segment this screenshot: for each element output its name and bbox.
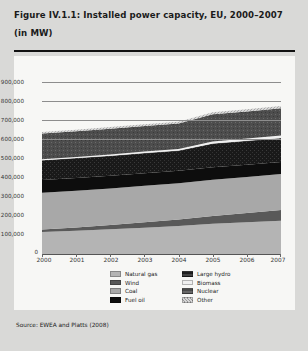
legend-label-fuel_oil: Fuel oil bbox=[125, 297, 145, 303]
legend-item-wind[interactable]: Wind bbox=[110, 279, 157, 287]
y-tick-label: 600,000 bbox=[0, 136, 24, 142]
legend-label-natural_gas: Natural gas bbox=[125, 271, 157, 277]
legend-label-coal: Coal bbox=[125, 288, 137, 294]
figure-title-line-2: (in MW) bbox=[14, 27, 294, 39]
legend-item-nuclear[interactable]: Nuclear bbox=[182, 287, 231, 295]
legend-label-other: Other bbox=[197, 297, 213, 303]
y-tick-label: 300,000 bbox=[0, 193, 24, 199]
gridline-900000 bbox=[42, 82, 281, 83]
y-tick-label: 800,000 bbox=[0, 98, 24, 104]
legend-swatch-wind bbox=[110, 280, 121, 286]
title-divider-rule bbox=[14, 50, 295, 52]
source-note: Source: EWEA and Platts (2008) bbox=[16, 322, 109, 328]
x-tick-label: 2003 bbox=[130, 257, 160, 263]
legend-swatch-coal bbox=[110, 288, 121, 294]
legend-item-fuel_oil[interactable]: Fuel oil bbox=[110, 296, 157, 304]
legend-column-right: Large hydroBiomassNuclearOther bbox=[182, 270, 231, 304]
legend-label-wind: Wind bbox=[125, 280, 139, 286]
x-tick-label: 2002 bbox=[96, 257, 126, 263]
y-tick-label: 100,000 bbox=[0, 231, 24, 237]
x-tick-label: 2006 bbox=[232, 257, 262, 263]
figure-container: Figure IV.1.1: Installed power capacity,… bbox=[0, 0, 308, 351]
legend-swatch-fuel_oil bbox=[110, 297, 121, 303]
figure-title-line-1: Figure IV.1.1: Installed power capacity,… bbox=[14, 9, 294, 21]
legend-item-coal[interactable]: Coal bbox=[110, 287, 157, 295]
gridline-700000 bbox=[42, 120, 281, 121]
stacked-area-plot bbox=[42, 82, 281, 254]
y-tick-label: 500,000 bbox=[0, 155, 24, 161]
y-tick-label: 400,000 bbox=[0, 174, 24, 180]
area-layers bbox=[42, 106, 281, 254]
gridline-800000 bbox=[42, 101, 281, 102]
figure-header: Figure IV.1.1: Installed power capacity,… bbox=[0, 0, 308, 52]
gridline-600000 bbox=[42, 139, 281, 140]
y-tick-label: 900,000 bbox=[0, 79, 24, 85]
legend-swatch-large_hydro bbox=[182, 271, 193, 277]
x-axis-line bbox=[42, 254, 281, 255]
y-tick-label-zero: 0 bbox=[14, 249, 38, 255]
x-tick-label: 2000 bbox=[29, 257, 59, 263]
legend-label-biomass: Biomass bbox=[197, 280, 221, 286]
legend-swatch-nuclear bbox=[182, 288, 193, 294]
legend-swatch-biomass bbox=[182, 280, 193, 286]
legend-swatch-other bbox=[182, 297, 193, 303]
x-tick-label: 2007 bbox=[263, 257, 293, 263]
chart-panel: 900,000 800,000 700,000 600,000 500,000 … bbox=[14, 56, 295, 310]
legend-label-nuclear: Nuclear bbox=[197, 288, 219, 294]
legend-swatch-natural_gas bbox=[110, 271, 121, 277]
legend-item-large_hydro[interactable]: Large hydro bbox=[182, 270, 231, 278]
y-tick-label: 700,000 bbox=[0, 117, 24, 123]
plot-area bbox=[42, 82, 281, 254]
legend-item-other[interactable]: Other bbox=[182, 296, 231, 304]
x-tick-label: 2005 bbox=[198, 257, 228, 263]
legend-label-large_hydro: Large hydro bbox=[197, 271, 231, 277]
x-tick-label: 2001 bbox=[62, 257, 92, 263]
chart-legend: Natural gasWindCoalFuel oil Large hydroB… bbox=[14, 270, 295, 304]
x-tick-label: 2004 bbox=[164, 257, 194, 263]
legend-item-biomass[interactable]: Biomass bbox=[182, 279, 231, 287]
legend-column-left: Natural gasWindCoalFuel oil bbox=[110, 270, 157, 304]
legend-item-natural_gas[interactable]: Natural gas bbox=[110, 270, 157, 278]
y-tick-label: 200,000 bbox=[0, 212, 24, 218]
